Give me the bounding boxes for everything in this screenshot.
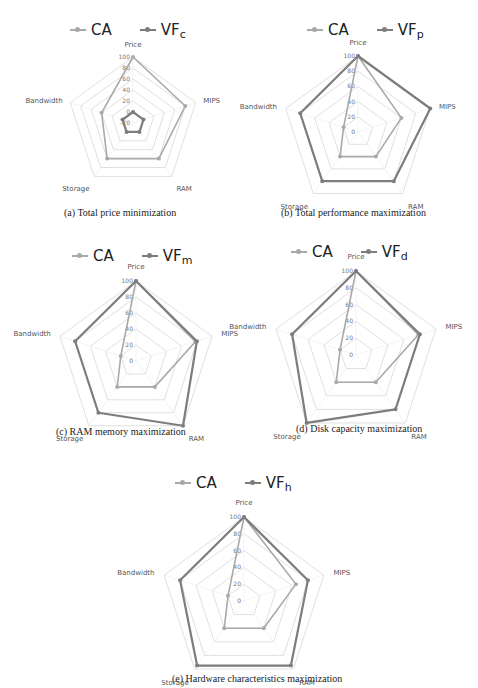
series-vf-c-point-price <box>131 110 135 114</box>
series-vf-c-point-storage <box>125 130 129 134</box>
series-ca-point-bandwidth <box>100 111 104 115</box>
series-ca-point-ram <box>157 157 161 161</box>
radar-panel-c: CA VFm 020406080100PriceMIPSRAMStorageBa… <box>0 230 239 455</box>
series-ca-point-mips <box>294 582 298 586</box>
series-vf-p-point-mips <box>428 107 432 111</box>
series-ca-point-storage <box>105 157 109 161</box>
axis-label-bandwidth: Bandwidth <box>25 97 62 105</box>
grid-spoke <box>136 336 212 361</box>
series-vf-d-point-bandwidth <box>290 332 294 336</box>
tick-label: 100 <box>122 277 134 284</box>
series-vf-m-point-price <box>134 279 138 283</box>
grid-spoke <box>244 575 324 601</box>
series-vf-d-point-ram <box>393 407 397 411</box>
tick-label: 20 <box>233 580 241 587</box>
tick-label: 20 <box>345 334 353 341</box>
series-ca-point-storage <box>338 155 342 159</box>
axis-label-price: Price <box>124 41 141 49</box>
series-ca-point-mips <box>399 116 403 120</box>
axis-label-price: Price <box>127 263 144 271</box>
series-vf-c-point-ram <box>137 130 141 134</box>
axis-label-mips: MIPS <box>439 103 456 111</box>
axis-label-storage: Storage <box>62 185 89 193</box>
tick-label: 100 <box>342 267 354 274</box>
series-vf-m-point-mips <box>195 339 199 343</box>
axis-label-mips: MIPS <box>445 323 462 331</box>
radar-panel-e: CA VFh 020406080100PriceMIPSRAMStorageBa… <box>120 455 360 688</box>
series-vf-p-line <box>300 56 430 181</box>
chart-caption: (e) Hardware characteristics maximizatio… <box>172 673 342 684</box>
grid-spoke <box>136 361 183 426</box>
radar-panel-d: CA VFd 020406080100PriceMIPSRAMStorageBa… <box>239 230 478 455</box>
series-ca-point-storage <box>115 385 119 389</box>
tick-label: 60 <box>122 75 130 82</box>
axis-label-mips: MIPS <box>221 330 238 338</box>
radar-chart: 020406080100PriceMIPSRAMStorageBandwidth <box>239 0 478 200</box>
tick-label: 0 <box>349 351 353 358</box>
axis-label-storage: Storage <box>273 433 300 441</box>
grid-spoke <box>313 132 358 193</box>
grid-spoke <box>356 355 405 423</box>
tick-label: 20 <box>122 97 130 104</box>
radar-chart: 020406080100PriceMIPSRAMStorageBandwidth <box>239 230 478 430</box>
series-vf-p-point-bandwidth <box>298 111 302 115</box>
axis-label-mips: MIPS <box>203 97 220 105</box>
series-vf-h-point-storage <box>195 664 199 668</box>
chart-caption: (c) RAM memory maximization <box>56 426 186 437</box>
series-ca-point-bandwidth <box>119 354 123 358</box>
axis-label-ram: RAM <box>189 435 204 443</box>
series-vf-h-point-price <box>242 515 246 519</box>
series-vf-p-point-storage <box>320 179 324 183</box>
tick-label: 40 <box>122 86 130 93</box>
series-ca-point-bandwidth <box>338 348 342 352</box>
radar-panel-b: CA VFp 020406080100PriceMIPSRAMStorageBa… <box>239 0 478 230</box>
series-ca-point-bandwidth <box>226 594 230 598</box>
axis-label-bandwidth: Bandwidth <box>229 323 266 331</box>
series-vf-m-point-storage <box>96 411 100 415</box>
series-ca-point-ram <box>262 626 266 630</box>
axis-label-ram: RAM <box>176 185 191 193</box>
series-ca-point-storage <box>334 380 338 384</box>
axis-label-mips: MIPS <box>333 569 350 577</box>
series-vf-p-point-ram <box>392 179 396 183</box>
axis-label-price: Price <box>347 253 364 261</box>
series-vf-d-point-price <box>354 269 358 273</box>
chart-caption: (a) Total price minimization <box>64 207 176 218</box>
series-vf-h-point-bandwidth <box>178 578 182 582</box>
tick-label: 100 <box>230 513 242 520</box>
series-ca-point-ram <box>374 380 378 384</box>
axis-label-price: Price <box>349 39 366 47</box>
series-vf-p-point-price <box>356 54 360 58</box>
grid-spoke <box>307 355 356 423</box>
grid-spoke <box>358 132 403 193</box>
axis-label-ram: RAM <box>411 433 426 441</box>
chart-caption: (d) Disk capacity maximization <box>296 423 422 434</box>
axis-label-price: Price <box>235 499 252 507</box>
axis-label-bandwidth: Bandwidth <box>117 569 154 577</box>
tick-label: 20 <box>347 113 355 120</box>
tick-label: 20 <box>125 341 133 348</box>
series-ca-point-mips <box>183 104 187 108</box>
tick-label: 0 <box>237 597 241 604</box>
series-vf-c-point-mips <box>141 118 145 122</box>
series-vf-c-point-bandwidth <box>121 118 125 122</box>
radar-panel-a: CA VFc -20020406080100PriceMIPSRAMStorag… <box>0 0 239 230</box>
series-ca-point-ram <box>374 155 378 159</box>
series-vf-h-point-mips <box>306 578 310 582</box>
tick-label: 0 <box>129 357 133 364</box>
radar-chart: -20020406080100PriceMIPSRAMStorageBandwi… <box>0 0 239 200</box>
series-ca-point-bandwidth <box>342 125 346 129</box>
axis-label-bandwidth: Bandwidth <box>14 330 51 338</box>
chart-caption: (b) Total performance maximization <box>281 207 426 218</box>
axis-label-bandwidth: Bandwidth <box>240 103 277 111</box>
tick-label: 0 <box>351 128 355 135</box>
series-ca-point-price <box>131 55 135 59</box>
series-vf-d-point-mips <box>418 332 422 336</box>
radar-chart: 020406080100PriceMIPSRAMStorageBandwidth <box>120 455 360 670</box>
radar-chart: 020406080100PriceMIPSRAMStorageBandwidth <box>0 230 239 430</box>
series-ca-point-ram <box>153 385 157 389</box>
tick-label: 100 <box>344 52 356 59</box>
grid-spoke <box>356 329 436 355</box>
grid-spoke <box>244 601 293 669</box>
tick-label: 100 <box>119 53 131 60</box>
